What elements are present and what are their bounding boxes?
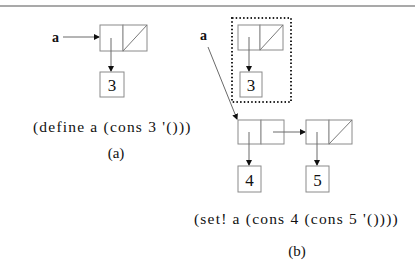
value-3: 3 [247,76,256,95]
old-cons-cell [238,25,283,50]
caption-a: (a) [108,145,125,162]
box-and-pointer-diagram: a 3 (define a (cons 3 '())) (a) a 3 [0,0,415,266]
code-set: (set! a (cons 4 (cons 5 '()))) [194,210,399,228]
code-define: (define a (cons 3 '())) [33,118,192,136]
value-3: 3 [108,76,117,95]
cons-cell-2 [306,120,352,144]
panel-a: a 3 (define a (cons 3 '())) (a) [33,25,192,162]
value-4: 4 [245,171,254,190]
variable-a-label: a [52,30,59,45]
panel-b: a 3 4 5 (set! a (cons 4 (cons 5 ' [194,18,399,260]
pointer-arrow-icon [208,47,237,119]
caption-b: (b) [288,243,306,260]
value-5: 5 [313,171,322,190]
cons-cell [100,25,147,51]
variable-a-label: a [200,28,207,43]
